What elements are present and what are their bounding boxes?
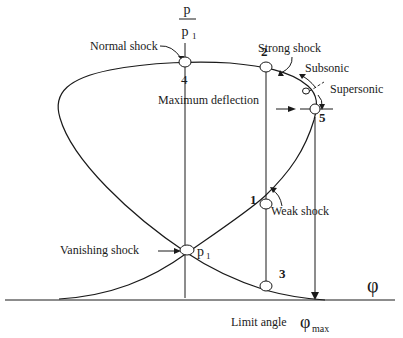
strong-shock-leader [281,57,292,73]
label-supersonic: Supersonic [330,82,383,96]
label-point-5: 5 [319,110,326,125]
label-p1: p [197,244,204,259]
point-3 [260,281,272,291]
point-2 [260,62,272,72]
svg-text:p: p [182,24,189,39]
y-axis-label: p p 1 [179,2,197,41]
label-phi-max: φ [300,312,310,332]
label-subsonic: Subsonic [305,61,349,75]
label-phi-max-subscript: max [312,323,329,334]
label-vanishing-shock: Vanishing shock [60,243,139,257]
normal-shock-leader [160,46,181,58]
label-normal-shock: Normal shock [90,39,158,53]
point-p1 [180,245,194,255]
label-maximum-deflection: Maximum deflection [158,93,259,107]
svg-text:1: 1 [192,31,197,41]
sonic-point [303,88,310,94]
svg-text:1: 1 [206,251,211,261]
svg-text:p: p [184,2,191,17]
label-weak-shock: Weak shock [271,204,329,218]
label-point-1: 1 [250,192,257,207]
label-point-3: 3 [279,266,286,281]
label-limit-angle: Limit angle [231,315,287,329]
label-phi-axis: φ [367,274,379,297]
shock-polar-diagram: p p 1 Normal shock Strong shock Subsonic… [0,0,403,338]
point-4 [179,57,191,67]
label-point-4: 4 [181,72,188,87]
label-point-2: 2 [261,44,268,59]
